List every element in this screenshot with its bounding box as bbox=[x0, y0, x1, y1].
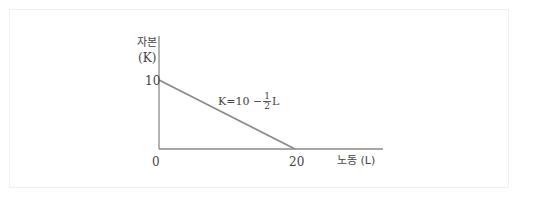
equation-suffix: L bbox=[272, 96, 279, 107]
equation-fraction: 1 2 bbox=[263, 92, 271, 111]
y-tick-10: 10 bbox=[145, 75, 160, 87]
fraction-denominator: 2 bbox=[264, 102, 270, 111]
origin-label: 0 bbox=[152, 156, 160, 168]
y-axis-label-symbol: (K) bbox=[138, 52, 156, 64]
x-tick-20: 20 bbox=[289, 156, 304, 168]
equation-prefix: K=10 − bbox=[218, 96, 262, 107]
budget-line bbox=[159, 80, 295, 149]
x-axis-label: 노동 (L) bbox=[337, 155, 375, 166]
equation-label: K=10 − 1 2 L bbox=[218, 92, 279, 111]
y-axis-label-korean: 자본 bbox=[137, 37, 157, 48]
